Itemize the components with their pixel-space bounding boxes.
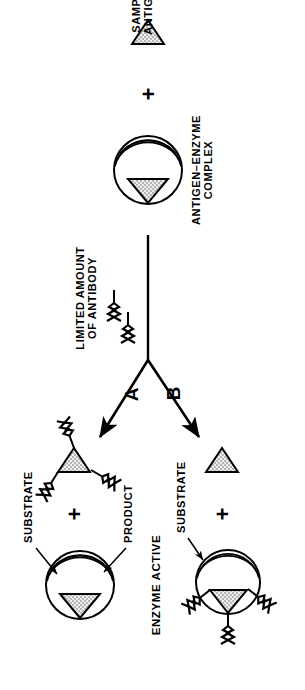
substrate-callout-arrow-bottom <box>188 538 203 560</box>
limited-antibody-symbol-2 <box>121 312 135 343</box>
elisa-diagram: SAMPLE ANTIGEN + ANTIGEN–ENZYME COMPLEX <box>0 0 305 690</box>
branch-a-label: A <box>121 387 142 401</box>
product-callout-arrow <box>104 548 126 572</box>
antigen-enzyme-complex <box>114 136 182 204</box>
limited-antibody-symbol-1 <box>107 290 121 321</box>
branch-b-label: B <box>163 386 184 400</box>
sample-antigen-label-line1: SAMPLE <box>130 0 142 33</box>
plus-sign-branch-b: + <box>210 508 235 521</box>
antibody-blocked-enzyme-complex <box>181 550 276 644</box>
substrate-label-top: SUBSTRATE <box>22 471 34 543</box>
substrate-label-bottom: SUBSTRATE <box>175 461 187 533</box>
antigen-enzyme-complex-label-line1: ANTIGEN–ENZYME <box>190 115 202 225</box>
antigen-enzyme-complex-label-line2: COMPLEX <box>202 141 214 200</box>
free-sample-antigen-triangle <box>206 448 238 472</box>
antibody-bound-sample-antigen <box>36 416 122 502</box>
free-enzyme-active <box>46 551 114 619</box>
limited-antibody-label-line2: OF ANTIBODY <box>86 257 98 339</box>
product-label: PRODUCT <box>122 484 134 543</box>
enzyme-active-label: ENZYME ACTIVE <box>150 535 162 636</box>
limited-antibody-label-line1: LIMITED AMOUNT <box>74 246 86 349</box>
plus-sign-bottom: + <box>136 88 161 101</box>
substrate-callout-arrow-top <box>36 548 57 574</box>
sample-antigen-label-line2: ANTIGEN <box>142 0 154 35</box>
rotated-diagram-canvas: SAMPLE ANTIGEN + ANTIGEN–ENZYME COMPLEX <box>0 0 305 690</box>
plus-sign-branch-a: + <box>62 508 87 521</box>
figure-root: SAMPLE ANTIGEN + ANTIGEN–ENZYME COMPLEX <box>0 0 305 690</box>
